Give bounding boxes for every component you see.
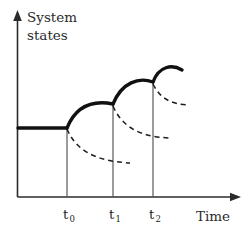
solid-segment-rise-after-t0	[67, 103, 113, 128]
dashed-decay-from-t0	[67, 129, 130, 163]
system-states-diagram: System states Time t 0 t 1 t 2	[0, 0, 251, 229]
y-axis-arrow-icon	[13, 10, 22, 21]
tick-label-t0-sub: 0	[70, 214, 75, 224]
drop-lines-group	[67, 82, 153, 196]
solid-curve-group	[18, 67, 182, 128]
dashed-decay-from-t1	[113, 106, 170, 138]
tick-label-t0-base: t	[63, 207, 69, 222]
dashed-curves-group	[67, 84, 188, 163]
dashed-decay-from-t2	[153, 84, 188, 105]
labels-group: System states Time t 0 t 1 t 2	[27, 9, 230, 224]
tick-label-t2-base: t	[149, 207, 155, 222]
solid-segment-rise-after-t2	[153, 67, 182, 82]
x-axis-arrow-icon	[230, 193, 241, 202]
tick-label-t1-base: t	[109, 207, 115, 222]
y-axis-label-line1: System	[27, 9, 77, 25]
x-axis-label: Time	[196, 208, 230, 224]
y-axis-label-line2: states	[27, 27, 68, 43]
tick-label-t1-sub: 1	[116, 214, 121, 224]
solid-segment-rise-after-t1	[113, 80, 153, 104]
tick-label-t2-sub: 2	[156, 214, 161, 224]
figure-container: System states Time t 0 t 1 t 2	[0, 0, 251, 229]
